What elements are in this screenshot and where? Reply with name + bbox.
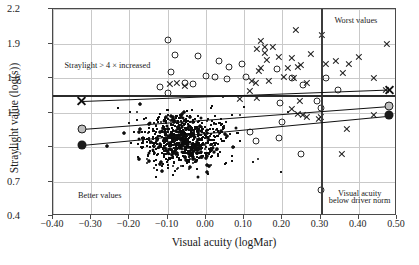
data-point (184, 141, 186, 143)
data-point (156, 119, 158, 121)
data-point (128, 122, 130, 124)
data-point (215, 142, 217, 144)
data-point (210, 144, 212, 146)
data-point-cross (322, 60, 330, 68)
data-point-circle (277, 100, 284, 107)
data-point (200, 152, 202, 154)
data-point (204, 148, 206, 150)
data-point-cross (345, 60, 353, 68)
data-point-circle (212, 73, 219, 80)
data-point (214, 144, 216, 146)
data-point (193, 144, 195, 146)
data-point (188, 166, 191, 169)
y-axis-title: Straylight value (log(s)) (8, 18, 20, 218)
data-point (213, 122, 215, 124)
data-point (166, 161, 168, 163)
data-point (117, 107, 119, 109)
data-point (149, 146, 151, 148)
data-point-circle (279, 118, 286, 125)
data-point (222, 128, 224, 130)
data-point (175, 117, 177, 119)
data-point (202, 136, 204, 138)
x-axis-tick-label: −0.40 (40, 218, 63, 229)
gridline-horizontal (53, 147, 395, 148)
data-point (161, 127, 164, 130)
data-point (146, 141, 148, 143)
data-point (159, 162, 162, 165)
data-point (204, 126, 206, 128)
data-point-circle (225, 63, 232, 70)
x-axis-tick-label: 0.10 (234, 218, 252, 229)
data-point (141, 142, 143, 144)
y-axis-tick-label: 1 (0, 141, 20, 152)
data-point-cross (284, 64, 292, 72)
data-point (196, 159, 198, 161)
data-point (167, 109, 169, 111)
data-point-cross (355, 53, 363, 61)
data-point (171, 133, 173, 135)
data-point (196, 147, 198, 149)
x-axis-tick-mark (205, 215, 206, 219)
data-point (196, 143, 198, 145)
data-point (207, 173, 209, 175)
x-axis-tick-label: 0.50 (387, 218, 405, 229)
data-point (175, 144, 177, 146)
data-point (175, 148, 177, 150)
data-point (144, 131, 146, 133)
data-point (182, 129, 184, 131)
data-point (162, 163, 164, 165)
data-point (137, 156, 139, 158)
data-point-circle (323, 75, 330, 82)
data-point (206, 136, 208, 138)
data-point (201, 139, 203, 141)
data-point-circle (172, 52, 179, 59)
data-point (184, 146, 186, 148)
y-axis-tick-label: 2.2 (0, 3, 20, 14)
data-point (168, 145, 170, 147)
data-point (123, 132, 126, 135)
data-point-cross (343, 125, 351, 133)
data-point (146, 162, 148, 164)
data-point (172, 174, 174, 176)
data-point (213, 135, 215, 137)
data-point (231, 160, 233, 162)
data-point (204, 134, 206, 136)
data-point (205, 146, 207, 148)
data-point (153, 153, 155, 155)
gridline-horizontal (53, 44, 395, 45)
data-point (191, 127, 193, 129)
data-point (167, 131, 169, 133)
data-point (179, 117, 181, 119)
data-point (130, 142, 132, 144)
plot-annotation: below driver norm (329, 196, 391, 206)
data-point (206, 152, 208, 154)
data-point (196, 175, 199, 178)
gridline-vertical (53, 9, 54, 214)
data-point (177, 138, 179, 140)
data-point (176, 126, 179, 129)
y-axis-tick-mark (48, 8, 52, 9)
data-point (210, 156, 212, 158)
data-point-cross (280, 73, 288, 81)
data-point (172, 165, 174, 167)
data-point (153, 146, 155, 148)
data-point (172, 152, 175, 155)
y-axis-tick-label: 1.9 (0, 37, 20, 48)
data-point (129, 111, 131, 113)
data-point (167, 118, 169, 120)
data-point (211, 120, 213, 122)
data-point (153, 167, 155, 169)
trend-line-endpoint-filled-circle (385, 111, 394, 120)
data-point (210, 139, 212, 141)
data-point-cross (303, 113, 311, 121)
plot-area (52, 8, 396, 215)
data-point (140, 146, 142, 148)
data-point (172, 124, 174, 126)
data-point-circle (195, 53, 202, 60)
data-point (231, 114, 233, 116)
data-point (167, 164, 169, 166)
data-point (188, 141, 190, 143)
data-point (160, 170, 163, 173)
data-point (196, 168, 198, 170)
data-point (229, 133, 231, 135)
